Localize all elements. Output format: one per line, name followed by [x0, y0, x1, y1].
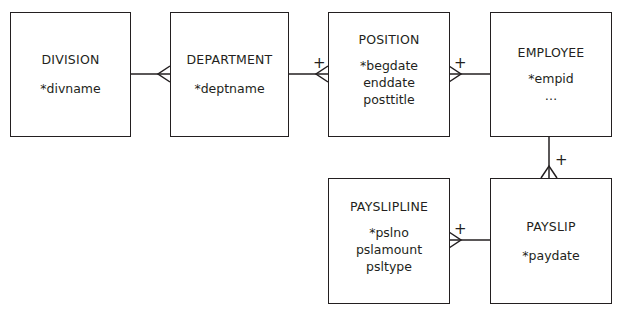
entity-attribute: *empid — [528, 70, 573, 87]
entity-title: PAYSLIP — [526, 219, 575, 234]
entity-title: POSITION — [358, 32, 419, 47]
entity-division: DIVISION *divname — [10, 12, 131, 137]
entity-attribute: enddate — [363, 74, 415, 91]
entity-attribute: posttitle — [363, 91, 414, 108]
entity-attribute: *pslno — [369, 224, 409, 241]
cardinality-marker: + — [313, 56, 326, 71]
entity-attribute: *begdate — [360, 57, 418, 74]
entity-payslip: PAYSLIP *paydate — [490, 178, 612, 304]
entity-payslipline: PAYSLIPLINE *pslno pslamount psltype — [328, 178, 450, 304]
entity-title: DEPARTMENT — [187, 52, 273, 67]
cardinality-marker: + — [555, 153, 568, 168]
entity-attribute: … — [545, 87, 558, 104]
entity-position: POSITION *begdate enddate posttitle — [328, 12, 450, 137]
entity-employee: EMPLOYEE *empid … — [490, 12, 612, 137]
entity-attribute: psltype — [366, 258, 412, 275]
cardinality-marker: + — [454, 56, 467, 71]
entity-department: DEPARTMENT *deptname — [170, 12, 289, 137]
entity-attribute: *deptname — [194, 80, 264, 97]
entity-title: DIVISION — [42, 52, 100, 67]
entity-title: EMPLOYEE — [518, 45, 585, 60]
entity-attribute: *divname — [40, 80, 101, 97]
entity-attribute: pslamount — [356, 241, 422, 258]
cardinality-marker: + — [454, 222, 467, 237]
entity-title: PAYSLIPLINE — [350, 199, 428, 214]
entity-attribute: *paydate — [522, 247, 579, 264]
